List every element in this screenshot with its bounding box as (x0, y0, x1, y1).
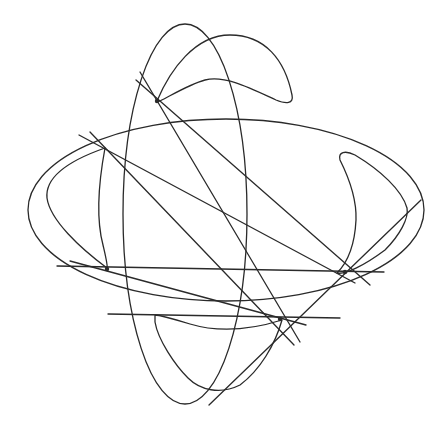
line-6 (108, 314, 340, 318)
crescents-group (47, 35, 407, 390)
tangent-point-4 (278, 317, 282, 321)
line-drawing-canvas (0, 0, 448, 427)
line-3 (79, 135, 355, 283)
line-2 (136, 80, 370, 285)
tangent-point-2 (105, 267, 109, 271)
points-group (105, 99, 347, 321)
right-crescent (337, 152, 407, 273)
tangent-point-3 (343, 270, 347, 274)
tangent-point-1 (155, 99, 159, 103)
left-crescent (47, 148, 107, 268)
line-8 (209, 200, 421, 405)
